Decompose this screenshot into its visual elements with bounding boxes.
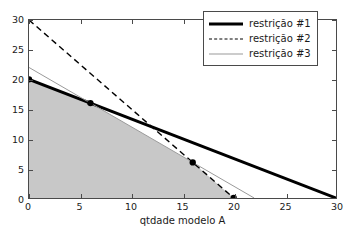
y-tick-mark [29, 140, 33, 141]
x-tick-mark [132, 20, 133, 24]
x-tick-mark [287, 194, 288, 198]
y-tick-label: 10 [12, 134, 24, 145]
y-tick-mark [29, 20, 33, 21]
y-tick-mark [332, 170, 336, 171]
legend-swatch-dashed-icon [209, 33, 243, 45]
x-tick-label: 30 [331, 201, 343, 212]
legend-label: restrição #2 [249, 33, 311, 45]
y-tick-mark [332, 80, 336, 81]
legend-item-restricao-3: restrição #3 [209, 46, 311, 61]
y-tick-label: 5 [18, 164, 24, 175]
legend-item-restricao-1: restrição #1 [209, 16, 311, 31]
y-tick-mark [332, 140, 336, 141]
x-tick-label: 20 [228, 201, 240, 212]
y-tick-label: 20 [12, 74, 24, 85]
y-tick-mark [29, 110, 33, 111]
x-tick-label: 15 [176, 201, 188, 212]
y-tick-label: 25 [12, 44, 24, 55]
y-tick-label: 30 [12, 14, 24, 25]
y-tick-label: 15 [12, 104, 24, 115]
x-tick-label: 0 [25, 201, 31, 212]
x-tick-mark [184, 194, 185, 198]
y-tick-mark [29, 80, 33, 81]
x-tick-label: 25 [279, 201, 291, 212]
y-tick-label: 0 [18, 194, 24, 205]
x-tick-mark [184, 20, 185, 24]
x-tick-mark [81, 20, 82, 24]
legend-label: restrição #1 [249, 18, 311, 30]
vertex-marker-2 [87, 100, 93, 106]
y-tick-mark [29, 170, 33, 171]
x-tick-label: 10 [125, 201, 137, 212]
x-tick-mark [29, 194, 30, 198]
x-tick-mark [132, 194, 133, 198]
y-tick-mark [332, 110, 336, 111]
chart-figure: qtdade modelo B qtdade modelo A restriçã… [0, 0, 347, 239]
x-tick-mark [81, 194, 82, 198]
y-tick-mark [29, 50, 33, 51]
feasible-region [29, 79, 234, 198]
x-tick-mark [235, 194, 236, 198]
legend-label: restrição #3 [249, 48, 311, 60]
y-tick-mark [332, 50, 336, 51]
legend-item-restricao-2: restrição #2 [209, 31, 311, 46]
x-tick-label: 5 [76, 201, 82, 212]
legend-swatch-thin-gray-icon [209, 48, 243, 60]
y-tick-mark [332, 20, 336, 21]
vertex-marker-3 [190, 159, 196, 165]
legend-swatch-solid-thick-icon [209, 18, 243, 30]
x-axis-title: qtdade modelo A [28, 215, 337, 226]
chart-legend: restrição #1 restrição #2 restrição #3 [203, 11, 318, 66]
